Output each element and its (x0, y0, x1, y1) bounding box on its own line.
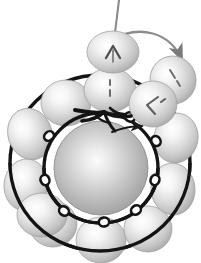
loop-node (98, 217, 110, 227)
central-sphere (54, 121, 148, 215)
orbiting-sphere-marked (129, 81, 177, 127)
molecular-model-diagram (0, 0, 201, 263)
ejected-sphere (87, 31, 139, 73)
orbiting-sphere-marked (84, 68, 136, 112)
figure-root (0, 0, 201, 263)
